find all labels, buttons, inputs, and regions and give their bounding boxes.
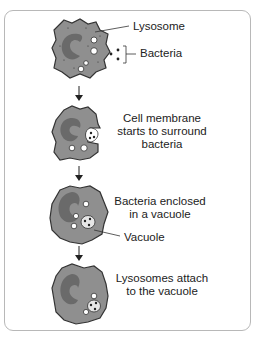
stage-3-caption: Bacteria enclosed in a vacuole xyxy=(110,195,210,221)
bacteria-icon xyxy=(108,44,138,66)
cell-stage-2 xyxy=(50,104,104,162)
stage-2-caption: Cell membrane starts to surround bacteri… xyxy=(112,112,212,151)
vacuole-label: Vacuole xyxy=(124,231,165,244)
arrow-down-icon xyxy=(75,166,83,182)
bacteria-label: Bacteria xyxy=(140,47,182,60)
lysosome-leader-line xyxy=(95,24,130,36)
lysosome-label: Lysosome xyxy=(133,20,185,33)
vacuole-leader-line xyxy=(94,228,124,240)
white-blood-cell-icon xyxy=(50,262,112,326)
white-blood-cell-icon xyxy=(50,104,104,162)
arrow-down-icon xyxy=(75,246,83,262)
arrow-down-icon xyxy=(75,86,83,102)
cell-stage-4 xyxy=(50,262,112,326)
stage-4-caption: Lysosomes attach to the vacuole xyxy=(112,272,212,298)
